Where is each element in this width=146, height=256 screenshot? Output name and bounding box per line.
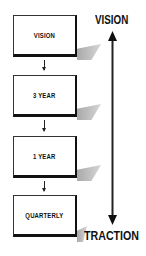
box-3-year-shadow	[77, 104, 101, 120]
arrow-down-icon	[44, 181, 45, 191]
box-1-year: 1 YEAR	[13, 136, 77, 178]
box-3-year: 3 YEAR	[13, 75, 77, 117]
box-3-year-label: 3 YEAR	[33, 92, 55, 99]
box-quarterly-label: QUARTERLY	[25, 212, 63, 219]
box-vision-label: VISION	[34, 32, 55, 39]
axis-bottom-label: TRACTION	[84, 228, 139, 243]
box-vision-shadow	[77, 44, 101, 60]
axis-top-label: VISION	[95, 13, 128, 27]
arrow-down-icon	[44, 120, 45, 131]
box-vision: VISION	[13, 15, 77, 57]
bidirectional-arrow-icon	[104, 30, 122, 226]
box-1-year-shadow	[77, 165, 101, 181]
arrow-down-icon	[44, 60, 45, 70]
box-1-year-label: 1 YEAR	[33, 153, 55, 160]
box-quarterly: QUARTERLY	[13, 195, 77, 237]
